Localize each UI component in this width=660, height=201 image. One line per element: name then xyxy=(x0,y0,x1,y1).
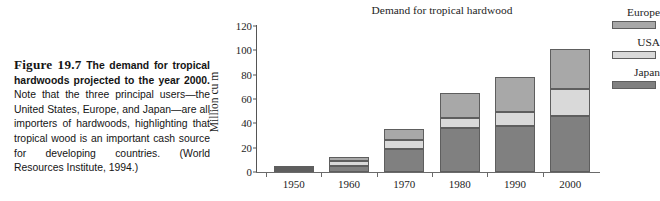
x-axis-tick-label: 1950 xyxy=(268,178,320,190)
y-axis-tick-label: 80 xyxy=(241,69,252,81)
y-axis-tick-mark xyxy=(253,50,256,51)
bar-segment-usa-2000 xyxy=(550,89,590,116)
y-axis-tick-mark xyxy=(253,172,256,173)
bar-segment-europe-1950 xyxy=(274,166,314,168)
chart: Demand for tropical hardwood Million cu … xyxy=(212,0,660,201)
y-axis-tick-label: 120 xyxy=(236,20,252,32)
y-axis-label: Million cu m xyxy=(208,52,221,152)
x-axis-tick-mark xyxy=(487,173,488,177)
figure-number: Figure 19.7 xyxy=(14,57,82,72)
chart-legend: EuropeUSAJapan xyxy=(604,6,660,96)
legend-entry-japan: Japan xyxy=(604,66,660,89)
y-axis-tick-mark xyxy=(253,147,256,148)
y-axis-tick-mark xyxy=(253,99,256,100)
legend-entry-europe: Europe xyxy=(604,6,660,29)
y-axis-tick-mark xyxy=(253,123,256,124)
figure-container: Figure 19.7 The demand for tropical hard… xyxy=(0,0,660,201)
bar-segment-japan-1970 xyxy=(384,149,424,172)
bar-segment-japan-1990 xyxy=(495,126,535,172)
bar-segment-europe-1960 xyxy=(329,157,369,161)
figure-caption: Figure 19.7 The demand for tropical hard… xyxy=(14,58,210,176)
bar-segment-japan-1960 xyxy=(329,166,369,172)
x-axis-tick-label: 1980 xyxy=(434,178,486,190)
x-axis-tick-label: 1990 xyxy=(489,178,541,190)
x-axis-tick-label: 1970 xyxy=(378,178,430,190)
x-axis-tick-mark xyxy=(432,173,433,177)
bar-segment-japan-1950 xyxy=(274,170,314,172)
bar-segment-usa-1990 xyxy=(495,112,535,125)
x-axis-tick-label: 1960 xyxy=(323,178,375,190)
y-axis-tick-label: 100 xyxy=(236,44,252,56)
legend-label-japan: Japan xyxy=(604,66,660,79)
legend-label-europe: Europe xyxy=(604,6,660,19)
x-axis-tick-mark xyxy=(321,173,322,177)
bar-segment-europe-1990 xyxy=(495,77,535,112)
y-axis-tick-label: 0 xyxy=(247,166,252,178)
y-axis-tick-mark xyxy=(253,26,256,27)
legend-swatch-usa xyxy=(612,51,656,59)
legend-swatch-europe xyxy=(612,21,656,29)
bar-segment-usa-1960 xyxy=(329,161,369,166)
bar-2000 xyxy=(550,49,590,172)
bar-1960 xyxy=(329,157,369,172)
x-axis-tick-mark xyxy=(377,173,378,177)
bar-segment-usa-1970 xyxy=(384,140,424,149)
bar-segment-japan-2000 xyxy=(550,116,590,172)
figure-caption-body: Note that the three principal users—the … xyxy=(14,89,210,173)
bar-segment-europe-1970 xyxy=(384,129,424,140)
y-axis-tick-label: 20 xyxy=(241,142,252,154)
y-axis-tick-mark xyxy=(253,74,256,75)
y-axis-tick-label: 40 xyxy=(241,117,252,129)
bar-segment-japan-1980 xyxy=(440,128,480,172)
bar-segment-europe-2000 xyxy=(550,49,590,89)
x-axis-tick-label: 2000 xyxy=(544,178,596,190)
chart-title: Demand for tropical hardwood xyxy=(332,4,552,16)
bar-segment-usa-1980 xyxy=(440,118,480,128)
bar-1980 xyxy=(440,93,480,172)
legend-swatch-japan xyxy=(612,81,656,89)
bar-segment-europe-1980 xyxy=(440,93,480,119)
bar-1950 xyxy=(274,167,314,172)
bar-1990 xyxy=(495,77,535,172)
bar-1970 xyxy=(384,129,424,172)
x-axis-tick-mark xyxy=(543,173,544,177)
y-axis-line xyxy=(256,25,257,173)
legend-label-usa: USA xyxy=(604,36,660,49)
x-axis-tick-mark xyxy=(266,173,267,177)
x-axis-line xyxy=(256,172,600,173)
plot-area: 020406080100120 195019601970198019902000 xyxy=(256,26,588,172)
y-axis-tick-label: 60 xyxy=(241,93,252,105)
legend-entry-usa: USA xyxy=(604,36,660,59)
